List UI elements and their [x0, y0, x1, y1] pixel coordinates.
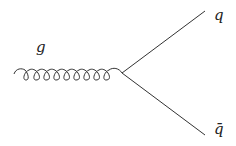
gluon-line	[14, 68, 122, 80]
quark-label: q	[214, 8, 224, 23]
gluon-label: g	[36, 40, 46, 55]
feynman-diagram	[0, 0, 236, 146]
antiquark-label: q̄	[214, 122, 224, 137]
quark-line	[122, 11, 205, 73]
antiquark-line	[122, 73, 205, 135]
